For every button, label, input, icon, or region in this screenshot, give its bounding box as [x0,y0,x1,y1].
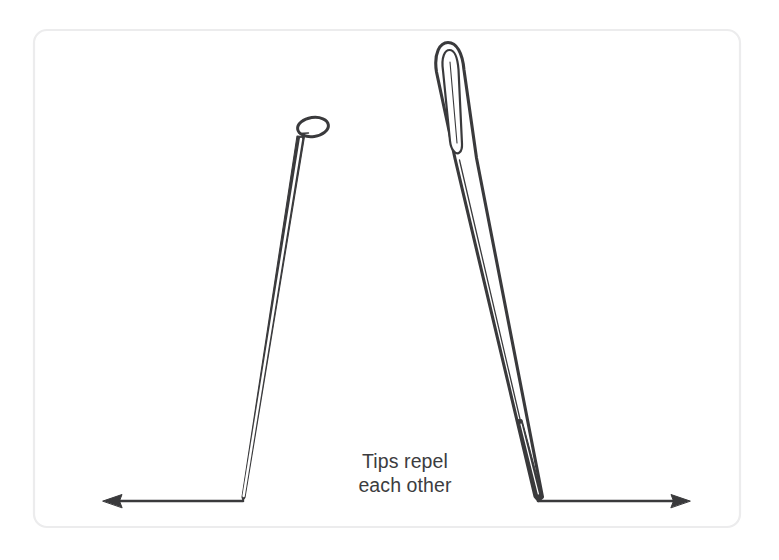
caption-line-1: Tips repel [362,450,448,472]
pin-head-junction [300,133,309,134]
caption-line-2: each other [358,474,452,496]
pin-and-needle-illustration: Tips repel each other [0,0,779,560]
figure-panel: Tips repel each other [0,0,779,560]
